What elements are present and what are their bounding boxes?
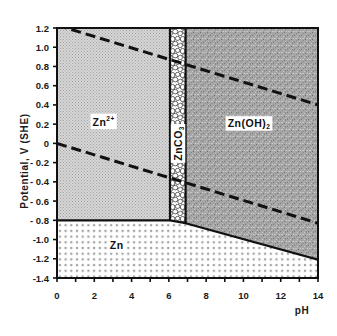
x-tick-label: 14 bbox=[313, 290, 324, 301]
region-label-text: Zn bbox=[92, 116, 106, 128]
region-label-text: ZnCO bbox=[172, 130, 184, 161]
y-axis-title: Potential, V (SHE) bbox=[19, 113, 30, 208]
x-axis-title: pH bbox=[295, 305, 310, 316]
x-tick-label: 6 bbox=[166, 290, 171, 301]
x-tick-label: 10 bbox=[238, 290, 249, 301]
x-tick-label: 0 bbox=[54, 290, 59, 301]
y-tick-label: - 0.4 bbox=[30, 176, 50, 187]
x-tick-label: 2 bbox=[92, 290, 97, 301]
y-tick-label: 0.8 bbox=[36, 61, 49, 72]
region-label-zn: Zn bbox=[110, 239, 124, 251]
x-axis: 02468101214 bbox=[54, 278, 324, 301]
region-label-subscript: 3 bbox=[177, 126, 184, 130]
x-tick-label: 4 bbox=[129, 290, 135, 301]
region-znoh2 bbox=[186, 28, 318, 260]
y-tick-label: 0.4 bbox=[36, 99, 50, 110]
pourbaix-diagram: Zn2+ZnCO3Zn(OH)2Zn 02468101214 1.21.00.8… bbox=[0, 0, 337, 336]
region-label-text: Zn bbox=[110, 239, 124, 251]
region-label-text: Zn(OH) bbox=[228, 117, 267, 129]
y-axis: 1.21.00.80.60.40.20- 0.2- 0.4- 0.6- 0.8-… bbox=[30, 23, 57, 284]
y-tick-label: 0.6 bbox=[36, 80, 49, 91]
y-tick-label: - 0.8 bbox=[30, 215, 49, 226]
y-tick-label: -1.2 bbox=[33, 253, 49, 264]
x-tick-label: 12 bbox=[275, 290, 286, 301]
y-tick-label: 0.2 bbox=[36, 119, 49, 130]
y-tick-label: 0 bbox=[44, 138, 49, 149]
region-label-superscript: 2+ bbox=[106, 115, 114, 122]
y-tick-label: 1.0 bbox=[36, 42, 49, 53]
y-tick-label: -1.4 bbox=[33, 273, 50, 284]
x-tick-label: 8 bbox=[203, 290, 208, 301]
region-label-znoh2: Zn(OH)2 bbox=[228, 117, 271, 130]
region-label-subscript: 2 bbox=[266, 123, 270, 130]
y-tick-label: -1.0 bbox=[33, 234, 49, 245]
region-label-znco3: ZnCO3 bbox=[172, 126, 185, 161]
y-tick-label: 1.2 bbox=[36, 23, 49, 34]
y-tick-label: - 0.6 bbox=[30, 196, 49, 207]
y-tick-label: - 0.2 bbox=[30, 157, 49, 168]
